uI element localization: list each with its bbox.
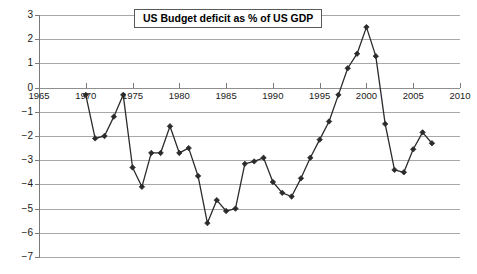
gridline-y--1 (39, 112, 460, 113)
gridline-y--6 (39, 233, 460, 234)
data-point-2002 (382, 121, 387, 126)
data-point-1996 (326, 119, 331, 124)
gridline-y--7 (39, 257, 460, 258)
y-axis-label-3: 3 (27, 10, 33, 20)
x-tick-1970 (86, 83, 87, 88)
data-point-2000 (364, 24, 369, 29)
y-axis-label--2: −2 (22, 131, 33, 141)
data-point-1982 (195, 173, 200, 178)
data-point-1977 (149, 150, 154, 155)
data-point-2007 (429, 141, 434, 146)
data-point-2006 (420, 130, 425, 135)
y-tick-3 (35, 15, 40, 16)
y-axis-label--5: −5 (22, 204, 33, 214)
y-tick-1 (35, 63, 40, 64)
y-tick--3 (35, 160, 40, 161)
y-tick--5 (35, 209, 40, 210)
x-tick-1965 (39, 83, 40, 88)
y-axis-label--4: −4 (22, 179, 33, 189)
gridline-y-1 (39, 63, 460, 64)
gridline-y--5 (39, 209, 460, 210)
x-axis-label-2010: 2010 (449, 91, 470, 101)
y-tick-0 (35, 88, 40, 89)
data-point-1999 (354, 51, 359, 56)
data-point-2001 (373, 53, 378, 58)
data-point-1981 (186, 145, 191, 150)
plot-area: 3210−1−2−3−4−5−6−7 196519701975198019851… (39, 15, 460, 257)
data-point-1993 (298, 176, 303, 181)
x-tick-2000 (366, 83, 367, 88)
gridline-y-2 (39, 39, 460, 40)
y-axis-label-1: 1 (27, 58, 33, 68)
y-tick--2 (35, 136, 40, 137)
x-axis-label-1995: 1995 (309, 91, 330, 101)
x-axis-label-1965: 1965 (28, 91, 49, 101)
x-tick-1985 (226, 83, 227, 88)
y-tick--6 (35, 233, 40, 234)
y-tick--7 (35, 257, 40, 258)
x-axis-label-2005: 2005 (403, 91, 424, 101)
data-point-1991 (280, 190, 285, 195)
data-point-1984 (214, 197, 219, 202)
y-axis-label--1: −1 (22, 107, 33, 117)
x-tick-1980 (179, 83, 180, 88)
data-point-2005 (411, 147, 416, 152)
gridline-y--2 (39, 136, 460, 137)
x-axis-label-1970: 1970 (75, 91, 96, 101)
x-tick-1990 (273, 83, 274, 88)
data-point-1973 (111, 114, 116, 119)
y-axis-label-2: 2 (27, 34, 33, 44)
y-tick--4 (35, 184, 40, 185)
data-point-1987 (242, 161, 247, 166)
x-tick-1975 (133, 83, 134, 88)
chart-title: US Budget deficit as % of US GDP (134, 9, 322, 28)
gridline-y--3 (39, 160, 460, 161)
data-point-1992 (289, 194, 294, 199)
gridline-y--4 (39, 184, 460, 185)
x-tick-1995 (320, 83, 321, 88)
data-point-1979 (167, 124, 172, 129)
y-tick-2 (35, 39, 40, 40)
gridline-y-0 (39, 88, 460, 89)
data-point-1983 (205, 220, 210, 225)
x-axis-label-2000: 2000 (356, 91, 377, 101)
chart-container: 3210−1−2−3−4−5−6−7 196519701975198019851… (0, 0, 477, 274)
x-tick-2010 (460, 83, 461, 88)
x-axis-label-1985: 1985 (216, 91, 237, 101)
y-tick--1 (35, 112, 40, 113)
data-point-1978 (158, 150, 163, 155)
y-axis-label--7: −7 (22, 252, 33, 262)
data-point-1997 (336, 92, 341, 97)
x-axis-label-1980: 1980 (169, 91, 190, 101)
x-axis-label-1990: 1990 (262, 91, 283, 101)
data-point-2004 (401, 170, 406, 175)
series-polyline (86, 27, 432, 223)
data-point-1975 (130, 165, 135, 170)
data-point-2003 (392, 167, 397, 172)
data-point-1995 (317, 137, 322, 142)
data-point-1998 (345, 66, 350, 71)
y-axis-label--6: −6 (22, 228, 33, 238)
x-axis-label-1975: 1975 (122, 91, 143, 101)
data-point-1980 (177, 150, 182, 155)
x-tick-2005 (413, 83, 414, 88)
y-axis-label--3: −3 (22, 155, 33, 165)
